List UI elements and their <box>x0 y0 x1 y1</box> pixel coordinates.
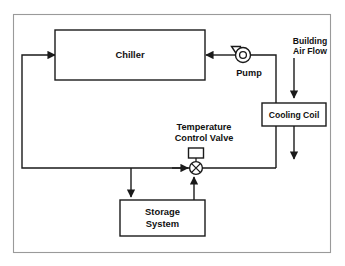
control-valve-node[interactable] <box>189 148 204 174</box>
chiller-node[interactable]: Chiller <box>55 30 205 80</box>
temperature-control-valve-label-line2: Control Valve <box>175 133 234 143</box>
hvac-schematic-diagram: Chiller Cooling Coil Storage System <box>0 0 345 266</box>
storage-system-node[interactable]: Storage System <box>120 200 205 236</box>
building-air-flow-label-line2: Air Flow <box>293 46 327 56</box>
pump-icon[interactable] <box>236 48 251 63</box>
valve-actuator-icon[interactable] <box>189 148 204 158</box>
pump-label: Pump <box>236 68 262 78</box>
cooling-coil-node[interactable]: Cooling Coil <box>262 103 326 126</box>
chiller-label: Chiller <box>115 49 145 60</box>
cooling-coil-label: Cooling Coil <box>269 110 320 120</box>
temperature-control-valve-label-line1: Temperature <box>177 122 232 132</box>
storage-system-label-line2: System <box>146 218 179 229</box>
storage-system-label-line1: Storage <box>145 206 180 217</box>
schematic-canvas: Chiller Cooling Coil Storage System <box>0 0 345 266</box>
building-air-flow-label-line1: Building <box>293 36 327 46</box>
